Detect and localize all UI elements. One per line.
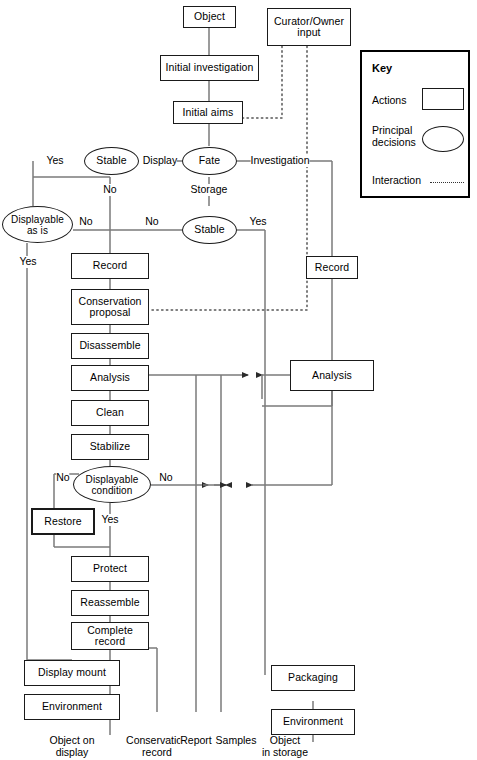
node-initial-investigation[interactable]: Initial investigation — [160, 55, 259, 81]
node-reassemble-label: Reassemble — [80, 597, 139, 609]
output-object-in-storage: Object in storage — [262, 735, 308, 758]
node-stable-display-label: Stable — [96, 155, 126, 167]
output-samples: Samples — [216, 735, 257, 747]
node-curator-owner-input[interactable]: Curator/Owner input — [267, 8, 351, 46]
key-action-shape — [422, 88, 464, 110]
node-complete-record-label: Complete record — [87, 625, 133, 648]
node-stable-storage[interactable]: Stable — [182, 216, 237, 244]
output-object-on-display: Object on display — [50, 735, 95, 758]
node-curator-owner-input-label: Curator/Owner input — [274, 16, 344, 39]
edge-label-no-displayable-condition-right: No — [159, 472, 172, 484]
key-principal-decisions-label: Principal decisions — [372, 124, 416, 148]
node-object-label: Object — [194, 11, 225, 23]
node-record-left-label: Record — [93, 260, 127, 272]
node-environment-right[interactable]: Environment — [271, 709, 355, 735]
node-initial-aims[interactable]: Initial aims — [173, 101, 243, 124]
node-conservation-proposal[interactable]: Conservation proposal — [71, 289, 149, 325]
node-analysis-left-label: Analysis — [90, 372, 130, 384]
key-legend: Key Actions Principal decisions Interact… — [360, 50, 470, 198]
key-interaction-label: Interaction — [372, 174, 421, 186]
node-record-left[interactable]: Record — [71, 253, 149, 279]
node-stable-storage-label: Stable — [194, 224, 224, 236]
edge-label-no-stable-display: No — [103, 184, 116, 196]
node-disassemble-label: Disassemble — [79, 340, 140, 352]
node-analysis-right[interactable]: Analysis — [290, 360, 374, 391]
edge-label-no-displayable-as-is: No — [79, 216, 92, 228]
node-analysis-right-label: Analysis — [312, 370, 352, 382]
node-conservation-proposal-label: Conservation proposal — [78, 296, 141, 319]
output-report: Report — [180, 735, 212, 747]
flowchart-canvas: Object Initial investigation Initial aim… — [0, 0, 477, 760]
node-clean[interactable]: Clean — [71, 400, 149, 426]
node-displayable-as-is-label: Displayable as is — [11, 214, 64, 236]
edge-label-yes-stable-display: Yes — [46, 155, 63, 167]
node-packaging[interactable]: Packaging — [271, 665, 355, 691]
key-actions-label: Actions — [372, 94, 406, 106]
node-fate[interactable]: Fate — [182, 147, 237, 175]
node-restore[interactable]: Restore — [31, 508, 95, 535]
edge-label-display: Display — [143, 155, 177, 167]
edge-label-yes-displayable-as-is: Yes — [19, 256, 36, 268]
node-analysis-left[interactable]: Analysis — [71, 365, 149, 391]
node-disassemble[interactable]: Disassemble — [71, 333, 149, 359]
key-interaction-line — [430, 182, 464, 183]
key-title: Key — [372, 62, 392, 74]
edge-label-no-mid: No — [145, 216, 158, 228]
node-reassemble[interactable]: Reassemble — [71, 590, 149, 616]
node-display-mount-label: Display mount — [38, 667, 106, 679]
node-restore-label: Restore — [44, 516, 81, 528]
node-stabilize-label: Stabilize — [90, 441, 131, 453]
node-displayable-as-is[interactable]: Displayable as is — [2, 206, 73, 243]
node-environment-left-label: Environment — [42, 701, 102, 713]
output-conservation-record: Conservation record — [126, 735, 188, 758]
node-clean-label: Clean — [96, 407, 124, 419]
edge-label-investigation: Investigation — [251, 155, 310, 167]
edge-label-yes-stable-storage: Yes — [249, 216, 266, 228]
node-stabilize[interactable]: Stabilize — [71, 434, 149, 460]
node-initial-investigation-label: Initial investigation — [166, 62, 254, 74]
edge-label-no-displayable-condition-left: No — [56, 472, 69, 484]
node-displayable-condition-label: Displayable condition — [86, 474, 139, 496]
node-display-mount[interactable]: Display mount — [24, 660, 120, 686]
node-stable-display[interactable]: Stable — [84, 147, 139, 175]
node-fate-label: Fate — [199, 155, 220, 167]
node-packaging-label: Packaging — [288, 672, 338, 684]
edge-label-storage: Storage — [191, 184, 228, 196]
node-displayable-condition[interactable]: Displayable condition — [73, 466, 151, 503]
node-environment-right-label: Environment — [283, 716, 343, 728]
node-protect-label: Protect — [93, 563, 127, 575]
node-record-right-label: Record — [315, 262, 349, 274]
node-initial-aims-label: Initial aims — [183, 107, 234, 119]
key-decision-shape — [422, 126, 464, 152]
node-record-right[interactable]: Record — [306, 256, 358, 279]
edge-label-yes-displayable-condition: Yes — [101, 514, 118, 526]
node-complete-record[interactable]: Complete record — [71, 622, 149, 650]
node-protect[interactable]: Protect — [71, 556, 149, 582]
node-object[interactable]: Object — [183, 6, 236, 28]
node-environment-left[interactable]: Environment — [24, 694, 120, 720]
